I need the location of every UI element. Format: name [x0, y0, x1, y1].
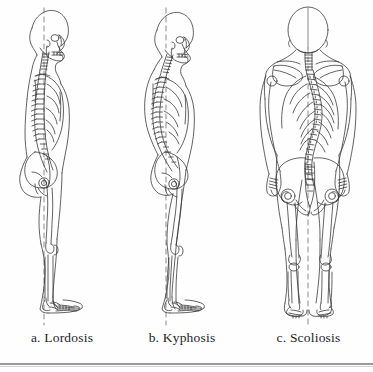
cervical-spine [40, 52, 49, 70]
kyphosis-illustration [122, 0, 242, 330]
vertebral-column [151, 73, 178, 171]
rib-cage [46, 76, 64, 150]
femur [44, 179, 54, 253]
patella [179, 246, 183, 256]
tibiae-fibulae [288, 271, 332, 310]
tibia-fibula [45, 255, 57, 307]
rib-cage [164, 79, 188, 153]
scapulae [267, 61, 349, 86]
body-outline [20, 28, 83, 313]
body-outline [145, 30, 205, 313]
figure-row [0, 0, 373, 330]
caption-lordosis: a. Lordosis [2, 330, 122, 346]
bottom-rule-secondary [0, 366, 373, 367]
patella [54, 245, 58, 255]
lordosis-illustration [2, 0, 122, 330]
feet [287, 307, 334, 318]
scoliosis-illustration [244, 0, 373, 330]
figure-lordosis [2, 0, 122, 330]
figure-scoliosis [244, 0, 373, 330]
patellae [289, 263, 331, 271]
bottom-rule [0, 363, 373, 365]
figure-kyphosis [122, 0, 242, 330]
caption-scoliosis: c. Scoliosis [244, 330, 373, 346]
pelvis [276, 158, 344, 216]
cervical-spine [305, 52, 312, 70]
caption-kyphosis: b. Kyphosis [122, 330, 242, 346]
caption-row: a. Lordosis b. Kyphosis c. Scoliosis [0, 330, 373, 360]
skull [157, 12, 193, 63]
figure-page: a. Lordosis b. Kyphosis c. Scoliosis [0, 0, 373, 372]
femur [171, 180, 182, 254]
